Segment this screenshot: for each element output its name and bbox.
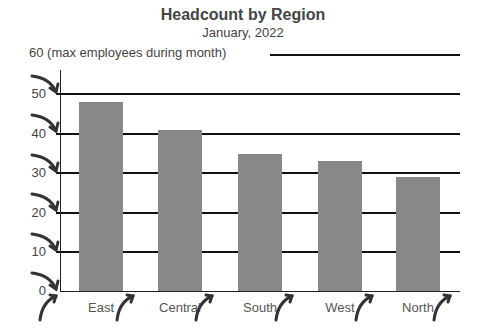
- curved-arrow-icons: [0, 0, 486, 336]
- chart-container: Headcount by Region January, 2022 60 (ma…: [0, 0, 486, 336]
